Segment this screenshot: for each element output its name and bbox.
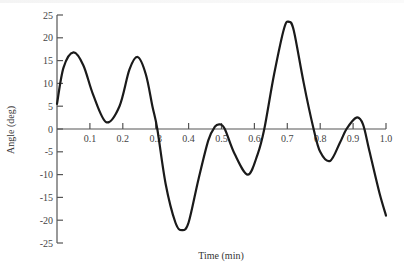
x-axis-title: Time (min) xyxy=(198,250,243,262)
x-tick-label: 0.1 xyxy=(84,133,97,144)
angle-curve xyxy=(57,21,386,230)
y-tick-label: -20 xyxy=(40,215,53,226)
y-tick-label: 20 xyxy=(43,32,53,43)
y-axis-title: Angle (deg) xyxy=(5,106,17,154)
y-tick-label: -5 xyxy=(45,146,53,157)
y-tick-label: 0 xyxy=(48,124,53,135)
y-tick-label: -25 xyxy=(40,238,53,249)
x-tick-label: 1.0 xyxy=(380,133,393,144)
y-tick-label: 5 xyxy=(48,101,53,112)
y-tick-label: -10 xyxy=(40,169,53,180)
y-tick-label: 10 xyxy=(43,78,53,89)
x-tick-label: 0.7 xyxy=(281,133,294,144)
y-tick-label: 15 xyxy=(43,55,53,66)
line-chart: 2520151050-5-10-15-20-25 0.10.20.30.40.5… xyxy=(0,0,404,266)
y-tick-label: 25 xyxy=(43,10,53,21)
y-tick-label: -15 xyxy=(40,192,53,203)
x-tick-label: 0.9 xyxy=(347,133,360,144)
x-tick-label: 0.4 xyxy=(182,133,195,144)
x-tick-label: 0.5 xyxy=(215,133,228,144)
x-tick-label: 0.2 xyxy=(117,133,130,144)
x-tick-label: 0.6 xyxy=(248,133,261,144)
